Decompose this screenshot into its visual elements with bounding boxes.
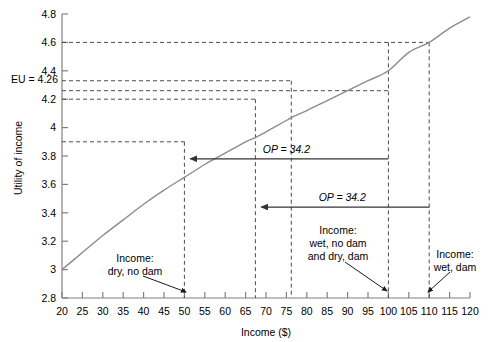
y-axis-ticks bbox=[62, 14, 68, 298]
y-tick-label: 4 bbox=[50, 121, 56, 133]
x-tick-label: 95 bbox=[362, 305, 374, 317]
callout-line: Income: bbox=[319, 224, 356, 236]
callout-line: wet, dam bbox=[433, 261, 477, 273]
callout-2: Income:wet, dam bbox=[433, 248, 477, 273]
y-tick-label: 4.8 bbox=[41, 8, 56, 20]
x-tick-label: 115 bbox=[441, 305, 458, 317]
horizontal-reference-lines bbox=[62, 42, 429, 141]
x-tick-label: 40 bbox=[138, 305, 150, 317]
op-arrow-label: OP = 34.2 bbox=[263, 143, 310, 155]
callout-arrows bbox=[143, 262, 450, 292]
eu-value-label: EU = 4.26 bbox=[11, 73, 58, 85]
callout-line: wet, no dam bbox=[308, 237, 366, 249]
x-tick-label: 55 bbox=[199, 305, 211, 317]
x-tick-label: 25 bbox=[77, 305, 89, 317]
y-tick-label: 3.8 bbox=[41, 150, 56, 162]
y-tick-label: 3 bbox=[50, 263, 56, 275]
x-tick-label: 45 bbox=[158, 305, 170, 317]
x-axis-tick-labels: 2025303540455055606570758085909510010511… bbox=[56, 305, 479, 317]
utility-of-income-chart: 2.833.23.43.63.844.24.44.64.8 2025303540… bbox=[0, 0, 488, 342]
callout-arrow bbox=[143, 276, 186, 292]
callout-line: Income: bbox=[116, 252, 153, 264]
x-tick-label: 75 bbox=[281, 305, 293, 317]
y-tick-label: 2.8 bbox=[41, 292, 56, 304]
callout-line: dry, no dam bbox=[108, 265, 163, 277]
y-tick-label: 4.2 bbox=[41, 93, 56, 105]
x-tick-label: 35 bbox=[117, 305, 129, 317]
x-tick-label: 120 bbox=[461, 305, 479, 317]
x-tick-label: 50 bbox=[179, 305, 191, 317]
callout-line: Income: bbox=[436, 248, 473, 260]
x-tick-label: 70 bbox=[260, 305, 272, 317]
op-arrow-group bbox=[190, 159, 429, 207]
op-arrow-label: OP = 34.2 bbox=[319, 191, 366, 203]
x-tick-label: 105 bbox=[400, 305, 418, 317]
callout-arrow bbox=[428, 272, 450, 292]
callout-line: and dry, dam bbox=[308, 250, 369, 262]
x-tick-label: 100 bbox=[380, 305, 398, 317]
x-tick-label: 30 bbox=[97, 305, 109, 317]
x-tick-label: 110 bbox=[421, 305, 438, 317]
y-tick-label: 4.6 bbox=[41, 36, 56, 48]
x-tick-label: 65 bbox=[240, 305, 252, 317]
x-tick-label: 20 bbox=[56, 305, 68, 317]
x-tick-label: 85 bbox=[321, 305, 333, 317]
x-tick-label: 90 bbox=[342, 305, 354, 317]
callout-arrow bbox=[345, 262, 387, 291]
y-tick-label: 3.6 bbox=[41, 178, 56, 190]
callout-annotations: Income:dry, no damIncome:wet, no damand … bbox=[108, 224, 477, 277]
chart-canvas: 2.833.23.43.63.844.24.44.64.8 2025303540… bbox=[0, 0, 488, 342]
callout-1: Income:wet, no damand dry, dam bbox=[308, 224, 369, 262]
y-axis-tick-labels: 2.833.23.43.63.844.24.44.64.8 bbox=[41, 8, 56, 304]
x-axis-title: Income ($) bbox=[241, 326, 291, 338]
x-tick-label: 60 bbox=[219, 305, 231, 317]
op-arrow-labels: OP = 34.2OP = 34.2 bbox=[263, 143, 366, 203]
x-axis-ticks bbox=[62, 292, 470, 298]
y-tick-label: 3.2 bbox=[41, 235, 56, 247]
callout-0: Income:dry, no dam bbox=[108, 252, 163, 277]
y-tick-label: 3.4 bbox=[41, 207, 56, 219]
x-tick-label: 80 bbox=[301, 305, 313, 317]
y-axis-title: Utility of income bbox=[12, 121, 24, 195]
